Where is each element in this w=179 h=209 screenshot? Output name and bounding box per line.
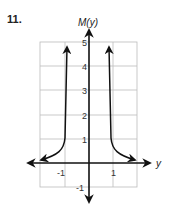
left-branch-curve	[41, 47, 67, 160]
tick-pos1-x: 1	[111, 168, 116, 178]
tick-neg1-x: -1	[57, 168, 65, 178]
tick-4: 4	[82, 62, 87, 72]
tick-3: 3	[82, 86, 87, 96]
tick-neg1-y: -1	[76, 183, 84, 193]
y-axis-label: M(y)	[78, 17, 98, 28]
tick-5: 5	[82, 38, 87, 48]
tick-2: 2	[82, 111, 87, 121]
axes	[28, 30, 150, 202]
tick-1: 1	[82, 135, 87, 145]
graph: 5 4 3 2 1 -1 -1 1 M(y) y	[0, 0, 179, 209]
x-axis-label: y	[155, 158, 162, 169]
